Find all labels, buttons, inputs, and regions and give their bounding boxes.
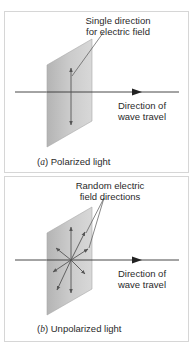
field-label: Random electric field directions: [65, 180, 155, 202]
caption: (b) Unpolarized light: [37, 323, 122, 335]
field-label: Single direction for electric field: [73, 15, 163, 37]
travel-label: Direction of wave travel: [112, 100, 172, 122]
polarizer-plane: [47, 39, 92, 147]
travel-label: Direction of wave travel: [112, 268, 172, 290]
wave-direction-arrowhead-icon: [132, 257, 142, 264]
panel-polarized-light: Single direction for electric field Dire…: [4, 11, 189, 173]
wave-direction-arrowhead-icon: [132, 89, 142, 96]
panel-unpolarized-light: Random electric field directions Directi…: [4, 176, 189, 342]
caption: (a) Polarized light: [37, 156, 110, 168]
